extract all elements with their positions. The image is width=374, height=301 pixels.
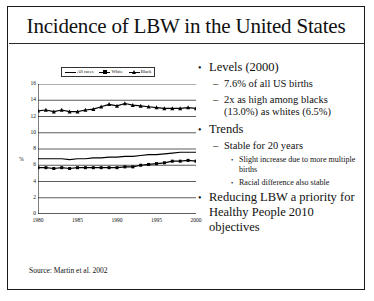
data-point-marker [68, 167, 71, 170]
y-tick-label: 6 [33, 162, 36, 168]
triangle-marker-swatch-icon [129, 70, 140, 75]
data-point-marker [123, 165, 126, 168]
bullet-level-2: –7.6% of all US births [197, 78, 363, 91]
bullet-marker-icon: • [198, 190, 202, 205]
data-point-marker [187, 159, 190, 162]
chart-legend: All races White Black [61, 67, 155, 77]
bullet-level-2: –Stable for 20 years [197, 140, 363, 153]
y-tick-label: 14 [31, 97, 37, 103]
x-tick-label: 1995 [151, 217, 162, 223]
data-point-marker [195, 160, 197, 163]
legend-label: White [111, 69, 122, 75]
x-tick-label: 1980 [33, 217, 44, 223]
bullet-text: 7.6% of all US births [224, 78, 363, 91]
bullet-text: Stable for 20 years [224, 140, 363, 153]
x-tick-label: 1985 [72, 217, 83, 223]
data-point-marker [147, 163, 150, 166]
data-point-marker [108, 166, 111, 169]
data-point-marker [100, 166, 103, 169]
bullet-marker-icon: – [213, 94, 218, 107]
data-point-marker [131, 165, 134, 168]
y-tick-label: 2 [33, 195, 36, 201]
y-tick-label: 16 [31, 81, 37, 87]
square-marker-swatch-icon [99, 70, 110, 75]
bullet-text: 2x as high among blacks (13.0%) as white… [224, 94, 363, 119]
bullet-text: Slight increase due to more multiple bir… [239, 155, 363, 175]
y-tick-label: 4 [33, 179, 36, 185]
lbw-trend-chart: All races White Black % 1614121086420 19… [19, 62, 200, 252]
data-point-marker [163, 161, 166, 164]
bullet-level-1: •Reducing LBW a priority for Healthy Peo… [197, 190, 363, 235]
bullet-level-1: •Trends [197, 122, 363, 137]
bullet-marker-icon: • [198, 60, 202, 75]
series-line-all-races [38, 152, 196, 159]
legend-entry-black: Black [129, 69, 152, 75]
legend-label: All races [77, 69, 93, 75]
data-point-marker [155, 162, 158, 165]
data-point-marker [171, 160, 174, 163]
y-axis-ticks: 1614121086420 [24, 84, 36, 214]
bullet-marker-icon: • [231, 178, 233, 188]
bullet-text: Trends [209, 122, 363, 137]
data-point-marker [76, 166, 79, 169]
data-point-marker [84, 166, 87, 169]
bullet-text: Levels (2000) [209, 60, 363, 75]
source-citation: Source: Martin et al. 2002 [29, 266, 108, 276]
bullet-marker-icon: • [231, 155, 233, 165]
data-point-marker [139, 164, 142, 167]
bullet-level-3: •Racial difference also stable [197, 178, 363, 188]
bullet-level-3: •Slight increase due to more multiple bi… [197, 155, 363, 175]
bullet-level-1: •Levels (2000) [197, 60, 363, 75]
bullet-text: Reducing LBW a priority for Healthy Peop… [209, 190, 363, 235]
line-swatch-icon [65, 70, 76, 75]
presentation-slide: Incidence of LBW in the United States Al… [7, 6, 365, 290]
page-title: Incidence of LBW in the United States [8, 14, 364, 38]
plot-area [38, 84, 196, 214]
y-axis-label: % [19, 156, 24, 162]
y-tick-label: 8 [33, 146, 36, 152]
chart-svg [38, 84, 196, 214]
data-point-marker [92, 166, 95, 169]
y-tick-label: 12 [31, 114, 37, 120]
bullet-list: •Levels (2000)–7.6% of all US births–2x … [197, 57, 363, 235]
x-tick-label: 1990 [112, 217, 123, 223]
data-point-marker [44, 166, 47, 169]
legend-entry-all-races: All races [65, 69, 93, 75]
plot-wrapper: % 1614121086420 19801985199019952000 [19, 84, 200, 234]
bullet-text: Racial difference also stable [239, 178, 363, 188]
bullet-marker-icon: – [213, 78, 218, 91]
data-point-marker [116, 166, 119, 169]
title-divider [9, 43, 365, 44]
bullet-level-2: –2x as high among blacks (13.0%) as whit… [197, 94, 363, 119]
y-tick-label: 10 [31, 130, 37, 136]
data-point-marker [52, 167, 55, 170]
legend-entry-white: White [99, 69, 122, 75]
data-point-marker [60, 166, 63, 169]
x-axis-ticks: 19801985199019952000 [38, 217, 196, 227]
data-point-marker [179, 160, 182, 163]
bullet-marker-icon: – [213, 140, 218, 153]
legend-label: Black [141, 69, 152, 75]
bullet-marker-icon: • [198, 122, 202, 137]
data-point-marker [38, 166, 40, 169]
y-tick-label: 0 [33, 211, 36, 217]
